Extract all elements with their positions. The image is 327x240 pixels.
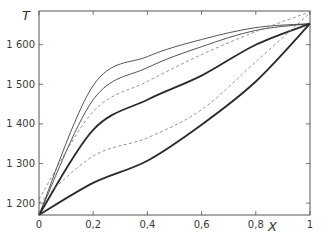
y-tick-label: 1 600 [6, 39, 35, 50]
x-axis-ticks: 00,20,40,60,81 [36, 11, 313, 230]
curves-group [39, 12, 310, 215]
plot-frame [39, 11, 310, 215]
y-tick-label: 1 200 [6, 198, 35, 209]
y-axis-ticks: 1 2001 3001 4001 5001 600 [6, 39, 310, 208]
curve-thin-upper-2 [39, 24, 310, 215]
y-axis-label: T [22, 8, 31, 23]
phase-diagram-chart: 00,20,40,60,81 1 2001 3001 4001 5001 600… [0, 0, 327, 240]
x-tick-label: 1 [307, 219, 313, 230]
x-tick-label: 0,4 [139, 219, 155, 230]
curve-thick-lower [39, 24, 310, 215]
curve-dashed-upper [39, 12, 310, 199]
x-tick-label: 0 [36, 219, 42, 230]
curve-dashed-lower [39, 13, 310, 203]
x-tick-label: 0,2 [85, 219, 101, 230]
x-tick-label: 0,8 [248, 219, 264, 230]
y-tick-label: 1 300 [6, 158, 35, 169]
curve-thin-upper-1 [39, 24, 310, 215]
y-tick-label: 1 400 [6, 118, 35, 129]
y-tick-label: 1 500 [6, 79, 35, 90]
x-tick-label: 0,6 [194, 219, 210, 230]
x-axis-label: X [267, 219, 278, 234]
curve-thick-middle [39, 24, 310, 215]
